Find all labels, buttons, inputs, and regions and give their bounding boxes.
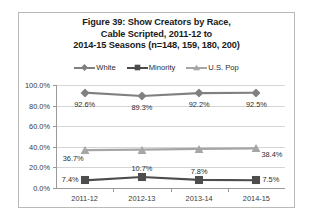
data-label: 92.6% [74, 100, 95, 109]
triangle-marker [252, 144, 261, 153]
plot-area: 0.0%20.0%40.0%60.0%80.0%100.0%2011-12201… [19, 13, 296, 209]
data-label: 7.4% [62, 175, 79, 184]
diamond-marker [252, 88, 261, 97]
chart-container: Figure 39: Show Creators by Race, Cable … [18, 12, 295, 208]
square-marker [195, 175, 204, 184]
data-label: 89.3% [131, 103, 152, 112]
y-axis-label: 20.0% [6, 163, 50, 172]
data-label: 7.8% [191, 167, 208, 176]
square-marker [137, 172, 146, 181]
y-gridline [56, 167, 285, 168]
y-gridline [56, 85, 285, 86]
x-axis-label: 2011-12 [71, 194, 98, 203]
x-axis-label: 2013-14 [186, 194, 213, 203]
data-label: 7.5% [262, 175, 279, 184]
y-gridline [56, 147, 285, 148]
y-gridline [56, 126, 285, 127]
y-axis-label: 60.0% [6, 122, 50, 131]
data-label: 92.2% [189, 100, 210, 109]
x-axis-label: 2014-15 [243, 194, 270, 203]
data-label: 92.5% [246, 100, 267, 109]
x-axis-label: 2012-13 [128, 194, 155, 203]
diamond-marker [195, 89, 204, 98]
y-axis-label: 100.0% [6, 81, 50, 90]
square-marker [80, 176, 89, 185]
data-label: 38.4% [261, 150, 282, 159]
y-axis-label: 80.0% [6, 101, 50, 110]
y-axis-label: 0.0% [6, 184, 50, 193]
square-marker [252, 176, 261, 185]
diamond-marker [80, 88, 89, 97]
y-axis-line [56, 85, 57, 188]
data-label: 10.7% [131, 164, 152, 173]
x-tick [113, 189, 114, 192]
y-axis-label: 40.0% [6, 142, 50, 151]
triangle-marker [137, 145, 146, 154]
diamond-marker [137, 92, 146, 101]
x-tick [171, 189, 172, 192]
triangle-marker [195, 144, 204, 153]
data-label: 36.7% [63, 154, 84, 163]
x-tick [228, 189, 229, 192]
